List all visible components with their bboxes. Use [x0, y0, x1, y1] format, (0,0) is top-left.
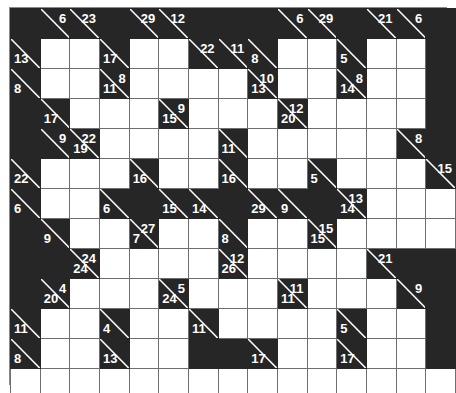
entry-cell[interactable] [159, 249, 189, 279]
entry-cell[interactable] [70, 279, 100, 309]
entry-cell[interactable] [129, 69, 159, 99]
entry-cell[interactable] [396, 309, 426, 339]
entry-cell[interactable] [129, 339, 159, 369]
entry-cell[interactable] [129, 99, 159, 129]
entry-cell[interactable] [396, 339, 426, 369]
entry-cell[interactable] [307, 339, 337, 369]
entry-cell[interactable] [188, 279, 218, 309]
entry-cell[interactable] [188, 129, 218, 159]
entry-cell[interactable] [218, 279, 248, 309]
entry-cell[interactable] [129, 129, 159, 159]
entry-cell[interactable] [188, 369, 218, 393]
entry-cell[interactable] [337, 129, 367, 159]
entry-cell[interactable] [366, 339, 396, 369]
entry-cell[interactable] [277, 129, 307, 159]
entry-cell[interactable] [218, 69, 248, 99]
entry-cell[interactable] [396, 189, 426, 219]
entry-cell[interactable] [277, 369, 307, 393]
entry-cell[interactable] [366, 189, 396, 219]
entry-cell[interactable] [248, 249, 278, 279]
entry-cell[interactable] [70, 159, 100, 189]
entry-cell[interactable] [129, 369, 159, 393]
entry-cell[interactable] [366, 309, 396, 339]
entry-cell[interactable] [337, 99, 367, 129]
entry-cell[interactable] [40, 39, 70, 69]
entry-cell[interactable] [11, 369, 41, 393]
kakuro-grid[interactable]: 6232912629216131722118588111013814179151… [10, 8, 456, 393]
entry-cell[interactable] [396, 99, 426, 129]
entry-cell[interactable] [218, 309, 248, 339]
entry-cell[interactable] [159, 129, 189, 159]
entry-cell[interactable] [248, 129, 278, 159]
entry-cell[interactable] [99, 159, 129, 189]
entry-cell[interactable] [159, 39, 189, 69]
entry-cell[interactable] [277, 339, 307, 369]
entry-cell[interactable] [307, 69, 337, 99]
entry-cell[interactable] [277, 219, 307, 249]
entry-cell[interactable] [40, 339, 70, 369]
entry-cell[interactable] [188, 99, 218, 129]
entry-cell[interactable] [396, 219, 426, 249]
entry-cell[interactable] [40, 309, 70, 339]
entry-cell[interactable] [248, 219, 278, 249]
entry-cell[interactable] [129, 279, 159, 309]
entry-cell[interactable] [248, 99, 278, 129]
entry-cell[interactable] [366, 99, 396, 129]
entry-cell[interactable] [129, 39, 159, 69]
entry-cell[interactable] [307, 309, 337, 339]
entry-cell[interactable] [159, 309, 189, 339]
entry-cell[interactable] [40, 159, 70, 189]
entry-cell[interactable] [248, 279, 278, 309]
entry-cell[interactable] [99, 219, 129, 249]
entry-cell[interactable] [248, 309, 278, 339]
entry-cell[interactable] [70, 219, 100, 249]
entry-cell[interactable] [307, 279, 337, 309]
entry-cell[interactable] [188, 219, 218, 249]
entry-cell[interactable] [218, 99, 248, 129]
entry-cell[interactable] [40, 69, 70, 99]
entry-cell[interactable] [70, 309, 100, 339]
entry-cell[interactable] [366, 279, 396, 309]
entry-cell[interactable] [159, 369, 189, 393]
entry-cell[interactable] [40, 189, 70, 219]
entry-cell[interactable] [307, 129, 337, 159]
entry-cell[interactable] [188, 249, 218, 279]
entry-cell[interactable] [188, 69, 218, 99]
entry-cell[interactable] [277, 249, 307, 279]
entry-cell[interactable] [337, 249, 367, 279]
entry-cell[interactable] [70, 189, 100, 219]
entry-cell[interactable] [159, 339, 189, 369]
entry-cell[interactable] [396, 39, 426, 69]
entry-cell[interactable] [337, 219, 367, 249]
entry-cell[interactable] [70, 99, 100, 129]
entry-cell[interactable] [129, 309, 159, 339]
entry-cell[interactable] [307, 249, 337, 279]
entry-cell[interactable] [277, 159, 307, 189]
entry-cell[interactable] [99, 279, 129, 309]
entry-cell[interactable] [366, 369, 396, 393]
entry-cell[interactable] [366, 129, 396, 159]
entry-cell[interactable] [159, 69, 189, 99]
entry-cell[interactable] [99, 99, 129, 129]
entry-cell[interactable] [307, 99, 337, 129]
entry-cell[interactable] [396, 159, 426, 189]
entry-cell[interactable] [99, 369, 129, 393]
entry-cell[interactable] [99, 249, 129, 279]
entry-cell[interactable] [248, 369, 278, 393]
entry-cell[interactable] [307, 39, 337, 69]
entry-cell[interactable] [218, 369, 248, 393]
entry-cell[interactable] [366, 39, 396, 69]
entry-cell[interactable] [366, 69, 396, 99]
entry-cell[interactable] [277, 69, 307, 99]
entry-cell[interactable] [70, 39, 100, 69]
entry-cell[interactable] [99, 129, 129, 159]
entry-cell[interactable] [366, 219, 396, 249]
entry-cell[interactable] [396, 69, 426, 99]
entry-cell[interactable] [426, 189, 456, 219]
entry-cell[interactable] [70, 339, 100, 369]
entry-cell[interactable] [129, 249, 159, 279]
entry-cell[interactable] [277, 309, 307, 339]
entry-cell[interactable] [70, 69, 100, 99]
entry-cell[interactable] [337, 159, 367, 189]
entry-cell[interactable] [426, 369, 456, 393]
